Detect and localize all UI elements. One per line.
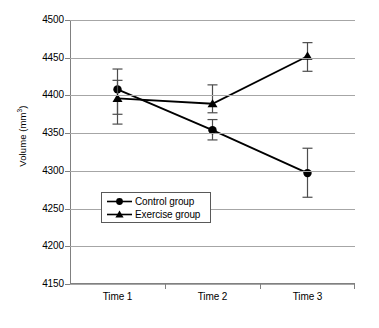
- data-series-layer: [70, 20, 355, 284]
- chart-figure: Volume (mm3) 450044504400435043004250420…: [0, 0, 379, 328]
- error-bar: [208, 85, 218, 113]
- y-tick-label: 4500: [24, 15, 64, 25]
- legend-item-control-group: Control group: [106, 195, 206, 208]
- y-tick-mark: [65, 171, 70, 172]
- legend-item-exercise-group: Exercise group: [106, 208, 206, 221]
- y-tick-label: 4250: [24, 204, 64, 214]
- y-tick-mark: [65, 20, 70, 21]
- series-triangle: [113, 43, 313, 124]
- y-tick-mark: [65, 284, 70, 285]
- gridline: [70, 171, 355, 172]
- legend-marker-triangle-icon: [106, 208, 133, 221]
- x-tick-mark: [260, 284, 261, 289]
- gridline: [70, 95, 355, 96]
- x-tick-mark: [354, 284, 355, 289]
- y-tick-mark: [65, 133, 70, 134]
- gridline: [70, 20, 355, 21]
- gridline: [70, 246, 355, 247]
- y-tick-label: 4150: [24, 279, 64, 289]
- y-tick-label: 4300: [24, 166, 64, 176]
- y-tick-label: 4400: [24, 90, 64, 100]
- y-tick-mark: [65, 58, 70, 59]
- y-axis-tick-labels: 45004450440043504300425042004150: [22, 0, 64, 328]
- x-tick-label: Time 3: [293, 291, 323, 302]
- y-tick-mark: [65, 95, 70, 96]
- y-tick-label: 4200: [24, 241, 64, 251]
- x-tick-label: Time 2: [198, 291, 228, 302]
- legend-marker-circle-icon: [106, 195, 133, 208]
- y-tick-label: 4450: [24, 53, 64, 63]
- gridline: [70, 284, 355, 285]
- y-tick-label: 4350: [24, 128, 64, 138]
- x-tick-mark: [165, 284, 166, 289]
- y-tick-mark: [65, 246, 70, 247]
- y-tick-mark: [65, 209, 70, 210]
- chart-legend: Control group Exercise group: [101, 192, 211, 223]
- error-bar: [113, 80, 123, 124]
- gridline: [70, 133, 355, 134]
- gridline: [70, 58, 355, 59]
- plot-area: [70, 20, 355, 284]
- x-tick-label: Time 1: [103, 291, 133, 302]
- legend-label-exercise-group: Exercise group: [133, 208, 200, 221]
- legend-label-control-group: Control group: [133, 195, 194, 208]
